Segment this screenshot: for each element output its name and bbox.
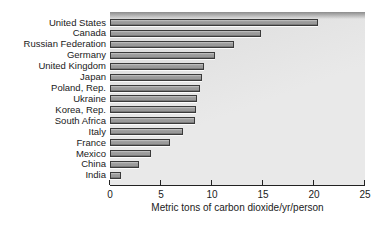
bar — [110, 106, 196, 113]
country-label: Poland, Rep. — [2, 83, 106, 93]
x-axis-tick-label: 5 — [158, 189, 164, 200]
country-label: Ukraine — [2, 94, 106, 104]
bar — [110, 172, 121, 179]
x-axis-tick-label: 25 — [359, 189, 370, 200]
bar-row: Italy — [110, 128, 365, 135]
bar-row: United Kingdom — [110, 63, 365, 70]
bar-row: Germany — [110, 52, 365, 59]
bar-row: United States — [110, 19, 365, 26]
bar — [110, 63, 204, 70]
x-axis-tick-label: 10 — [206, 189, 217, 200]
bar — [110, 41, 234, 48]
bar — [110, 95, 197, 102]
country-label: Korea, Rep. — [2, 105, 106, 115]
bar-row: China — [110, 161, 365, 168]
bar-row: South Africa — [110, 117, 365, 124]
bar-row: Mexico — [110, 150, 365, 157]
x-axis-tick-labels: 0510152025 — [110, 189, 365, 201]
bar — [110, 128, 183, 135]
x-axis-tick — [313, 180, 314, 185]
country-label: Japan — [2, 72, 106, 82]
bar — [110, 19, 318, 26]
bar — [110, 52, 215, 59]
bar — [110, 30, 261, 37]
x-axis-tick — [109, 180, 110, 185]
plot-area: United StatesCanadaRussian FederationGer… — [110, 12, 365, 186]
country-label: China — [2, 159, 106, 169]
country-label: Italy — [2, 127, 106, 137]
bar-row: Japan — [110, 74, 365, 81]
bar-row: Canada — [110, 30, 365, 37]
x-axis-tick — [160, 180, 161, 185]
co2-per-capita-bar-chart: United StatesCanadaRussian FederationGer… — [0, 0, 386, 225]
bar — [110, 85, 200, 92]
country-label: United States — [2, 18, 106, 28]
bar-row: Poland, Rep. — [110, 85, 365, 92]
bar — [110, 150, 151, 157]
bar-row: Korea, Rep. — [110, 106, 365, 113]
country-label: South Africa — [2, 116, 106, 126]
bar-row: India — [110, 172, 365, 179]
x-axis-tick — [262, 180, 263, 185]
bar — [110, 139, 170, 146]
country-label: Canada — [2, 28, 106, 38]
country-label: India — [2, 170, 106, 180]
bar-rows: United StatesCanadaRussian FederationGer… — [110, 19, 365, 179]
bar — [110, 117, 195, 124]
x-axis-tick — [211, 180, 212, 185]
country-label: Mexico — [2, 149, 106, 159]
x-axis-tick-label: 15 — [257, 189, 268, 200]
bar — [110, 74, 202, 81]
bar — [110, 161, 139, 168]
x-axis-tick-label: 0 — [107, 189, 113, 200]
country-label: United Kingdom — [2, 61, 106, 71]
bar-row: Russian Federation — [110, 41, 365, 48]
x-axis-label: Metric tons of carbon dioxide/yr/person — [110, 202, 365, 213]
bar-row: France — [110, 139, 365, 146]
bar-row: Ukraine — [110, 95, 365, 102]
country-label: France — [2, 138, 106, 148]
country-label: Germany — [2, 50, 106, 60]
country-label: Russian Federation — [2, 39, 106, 49]
x-axis-tick-label: 20 — [308, 189, 319, 200]
x-axis-tick — [364, 180, 365, 185]
